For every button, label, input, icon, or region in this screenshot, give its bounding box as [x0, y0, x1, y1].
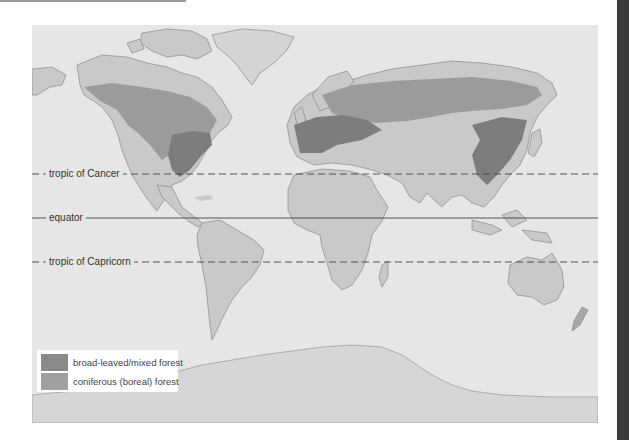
africa [288, 169, 388, 290]
world-forest-map: tropic of Cancer equator tropic of Capri… [32, 25, 598, 423]
coniferous-swatch [41, 373, 68, 390]
right-edge-bar [617, 0, 629, 440]
australia [508, 253, 564, 305]
tropic-of-cancer-label: tropic of Cancer [46, 168, 123, 179]
map-legend: broad-leaved/mixed forest coniferous (bo… [37, 350, 178, 392]
tropic-of-capricorn-label: tropic of Capricorn [46, 256, 134, 267]
legend-item-broadleaf: broad-leaved/mixed forest [41, 353, 174, 371]
legend-label-broadleaf: broad-leaved/mixed forest [73, 357, 183, 368]
south-america [197, 220, 264, 340]
legend-label-coniferous: coniferous (boreal) forest [73, 376, 179, 387]
top-edge-strip [0, 0, 186, 2]
greenland [212, 29, 294, 85]
broadleaf-swatch [41, 354, 68, 371]
legend-item-coniferous: coniferous (boreal) forest [41, 372, 174, 390]
equator-label: equator [46, 212, 86, 223]
